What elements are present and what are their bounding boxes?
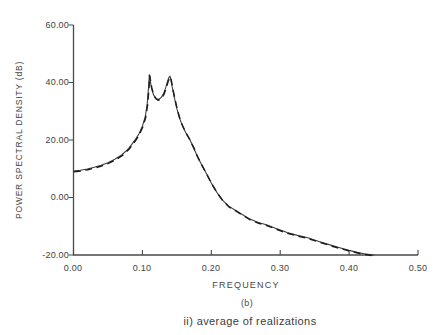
x-tick-label-040: 0.40 (329, 263, 369, 273)
x-tick-label-000: 0.00 (53, 263, 93, 273)
y-tick-label-40: 40.00 (27, 77, 69, 87)
figure-sub-label: (b) (147, 298, 347, 308)
y-tick-label-0: 0.00 (27, 192, 69, 202)
psd-curve-dashed (74, 75, 374, 255)
y-axis-title: POWER SPECTRAL DENSITY (dB) (14, 61, 24, 219)
axis-line (74, 25, 419, 255)
y-tick-label-20: 20.00 (27, 135, 69, 145)
psd-figure: POWER SPECTRAL DENSITY (dB) 60.00 40.00 … (0, 0, 445, 335)
x-tick-label-030: 0.30 (260, 263, 300, 273)
x-tick-label-010: 0.10 (122, 263, 162, 273)
y-tick-label-60: 60.00 (27, 20, 69, 30)
x-axis-title: FREQUENCY (146, 280, 346, 290)
x-tick-label-020: 0.20 (191, 263, 231, 273)
y-tick-label-neg20: -20.00 (27, 250, 69, 260)
figure-caption: ii) average of realizations (100, 315, 400, 327)
x-tick-label-050: 0.50 (398, 263, 438, 273)
axis-ticks (69, 25, 419, 255)
psd-curve-solid (74, 75, 374, 255)
